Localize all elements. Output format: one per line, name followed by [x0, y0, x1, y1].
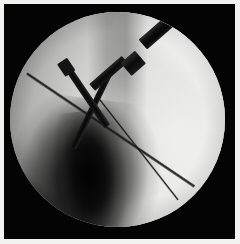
fluoroscopy-circular-field [10, 12, 225, 227]
collimator-frame [4, 4, 235, 239]
film-grain [10, 12, 225, 227]
fluoroscopy-image-canvas [0, 0, 240, 244]
